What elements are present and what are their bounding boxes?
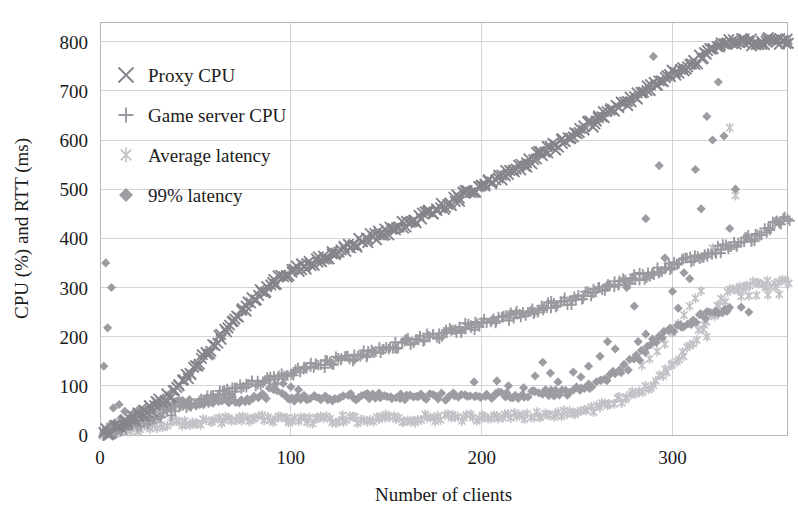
marker-diamond — [584, 362, 593, 371]
marker-diamond — [553, 377, 562, 386]
marker-asterisk — [646, 354, 653, 364]
marker-asterisk — [764, 290, 771, 300]
marker-asterisk — [776, 289, 783, 299]
marker-diamond — [685, 274, 694, 283]
marker-asterisk — [745, 291, 752, 301]
marker-diamond — [576, 372, 585, 381]
marker-diamond — [492, 376, 501, 385]
marker-diamond — [469, 377, 478, 386]
marker-asterisk — [680, 351, 687, 361]
marker-diamond — [655, 161, 664, 170]
marker-diamond — [569, 367, 578, 376]
legend-item-label: Proxy CPU — [148, 65, 235, 86]
marker-diamond — [531, 371, 540, 380]
marker-diamond — [668, 287, 677, 296]
marker-asterisk — [693, 335, 700, 345]
marker-diamond — [103, 323, 112, 332]
marker-diamond — [634, 337, 643, 346]
x-tick-label: 300 — [658, 447, 687, 468]
marker-asterisk — [121, 148, 132, 163]
marker-asterisk — [726, 123, 733, 133]
marker-diamond — [519, 383, 528, 392]
chart-legend: Proxy CPUGame server CPUAverage latency9… — [119, 65, 287, 206]
marker-x — [119, 68, 134, 83]
marker-asterisk — [785, 278, 792, 288]
marker-diamond — [744, 307, 753, 316]
y-tick-label: 400 — [60, 228, 89, 249]
y-tick-label: 700 — [60, 81, 89, 102]
marker-diamond — [286, 382, 295, 391]
marker-diamond — [99, 362, 108, 371]
marker-diamond — [119, 188, 133, 202]
marker-diamond — [504, 381, 513, 390]
marker-asterisk — [654, 346, 661, 356]
marker-diamond — [538, 358, 547, 367]
chart-figure: 01002003004005006007008000100200300Numbe… — [0, 0, 798, 520]
marker-diamond — [101, 258, 110, 267]
marker-diamond — [714, 77, 723, 86]
legend-item-label: 99% latency — [148, 185, 243, 206]
marker-diamond — [546, 368, 555, 377]
marker-asterisk — [692, 293, 699, 303]
x-axis-ticks: 0100200300 — [95, 447, 687, 468]
x-axis-label: Number of clients — [375, 484, 512, 505]
marker-diamond — [595, 352, 604, 361]
chart-plot-area: 01002003004005006007008000100200300Numbe… — [0, 0, 798, 520]
marker-diamond — [649, 52, 658, 61]
legend-item-label: Game server CPU — [148, 105, 287, 126]
series-proxy-cpu — [99, 32, 794, 440]
y-tick-label: 100 — [60, 376, 89, 397]
legend-item[interactable]: 99% latency — [119, 185, 243, 206]
legend-item[interactable]: Average latency — [121, 145, 271, 166]
y-tick-label: 300 — [60, 278, 89, 299]
x-tick-label: 0 — [95, 447, 105, 468]
marker-asterisk — [698, 286, 705, 296]
y-tick-label: 0 — [79, 425, 89, 446]
y-tick-label: 600 — [60, 130, 89, 151]
marker-diamond — [641, 214, 650, 223]
marker-diamond — [697, 204, 706, 213]
marker-diamond — [737, 303, 746, 312]
y-axis-ticks: 0100200300400500600700800 — [60, 32, 89, 446]
marker-diamond — [725, 224, 734, 233]
marker-asterisk — [686, 301, 693, 311]
marker-diamond — [641, 330, 650, 339]
y-axis-label: CPU (%) and RTT (ms) — [11, 138, 33, 319]
marker-asterisk — [680, 310, 687, 320]
x-tick-label: 100 — [277, 447, 306, 468]
marker-diamond — [107, 283, 116, 292]
marker-asterisk — [738, 291, 745, 301]
marker-diamond — [611, 344, 620, 353]
marker-diamond — [630, 302, 639, 311]
legend-item[interactable]: Game server CPU — [119, 105, 287, 126]
y-tick-label: 500 — [60, 179, 89, 200]
legend-item-label: Average latency — [148, 145, 271, 166]
x-tick-label: 200 — [467, 447, 496, 468]
marker-diamond — [719, 131, 728, 140]
y-tick-label: 200 — [60, 327, 89, 348]
marker-diamond — [679, 268, 688, 277]
marker-diamond — [708, 135, 717, 144]
marker-diamond — [702, 112, 711, 121]
y-tick-label: 800 — [60, 32, 89, 53]
marker-plus — [119, 108, 134, 123]
marker-diamond — [691, 165, 700, 174]
marker-diamond — [603, 337, 612, 346]
marker-asterisk — [753, 290, 760, 300]
legend-item[interactable]: Proxy CPU — [119, 65, 236, 86]
